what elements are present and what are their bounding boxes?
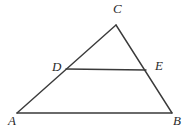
vertex-label-a: A xyxy=(8,114,16,127)
vertex-label-e: E xyxy=(155,59,163,72)
geometry-figure: A B C D E xyxy=(0,0,189,130)
vertex-label-b: B xyxy=(173,114,181,127)
segment-group xyxy=(17,25,172,113)
segment-cb xyxy=(116,25,172,113)
segment-de xyxy=(66,69,146,70)
vertex-label-d: D xyxy=(52,60,61,73)
vertex-label-c: C xyxy=(113,2,122,15)
